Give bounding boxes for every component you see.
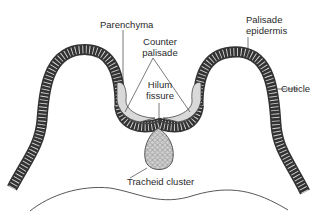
label-counter-palisade: Counter palisade <box>140 36 180 58</box>
diagram-canvas: Parenchyma Counter palisade Hilum fissur… <box>0 0 320 219</box>
right-epidermis-band <box>198 52 305 192</box>
left-epidermis-band <box>12 50 120 188</box>
label-hilum-line1: Hilum <box>142 79 178 90</box>
label-tracheid-cluster: Tracheid cluster <box>127 176 194 187</box>
label-counter-palisade-line2: palisade <box>140 47 180 58</box>
tracheid-cluster-shape <box>145 128 173 170</box>
label-palisade-line2: epidermis <box>246 25 287 36</box>
label-counter-palisade-line1: Counter <box>140 36 180 47</box>
label-hilum-fissure: Hilum fissure <box>142 79 178 101</box>
lower-boundary-line <box>30 187 288 211</box>
label-palisade-line1: Palisade <box>246 14 287 25</box>
label-cuticle: Cuticle <box>281 83 310 94</box>
label-parenchyma: Parenchyma <box>100 19 153 30</box>
label-hilum-line2: fissure <box>142 90 178 101</box>
label-palisade-epidermis: Palisade epidermis <box>246 14 287 36</box>
